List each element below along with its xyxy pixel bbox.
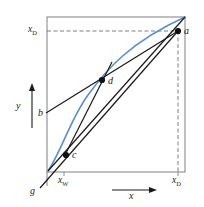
y-tick-label-xD: xD bbox=[28, 25, 37, 36]
q-line bbox=[64, 62, 112, 157]
stripping-operating-line bbox=[40, 31, 178, 188]
rectifying-operating-line bbox=[46, 31, 178, 113]
y-tick-subscript: D bbox=[32, 29, 37, 36]
x-axis-arrow bbox=[112, 187, 157, 193]
point-marker-d bbox=[99, 77, 105, 83]
y-axis-arrow bbox=[29, 83, 35, 128]
x-tick-label-xD: xD bbox=[172, 176, 181, 187]
point-marker-c bbox=[63, 152, 69, 158]
x-tick-label-xW: xW bbox=[58, 176, 68, 187]
x-axis-label: x bbox=[129, 191, 133, 201]
y-axis-label: y bbox=[16, 101, 20, 111]
point-label-d: d bbox=[108, 76, 113, 86]
point-label-g: g bbox=[30, 186, 35, 196]
point-marker-a bbox=[175, 28, 181, 34]
x-tick-left-subscript: W bbox=[62, 180, 68, 187]
point-label-b: b bbox=[38, 108, 43, 118]
point-label-c: c bbox=[72, 150, 76, 160]
x-tick-right-subscript: D bbox=[176, 180, 181, 187]
equilibrium-diagram: y x xD xW xD a d c b g bbox=[0, 0, 204, 207]
point-label-a: a bbox=[184, 26, 189, 36]
